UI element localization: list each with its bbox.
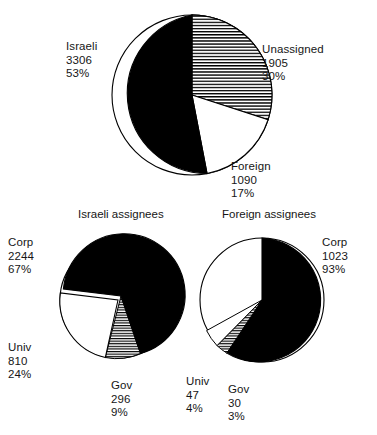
pie-israeli-assignees <box>60 234 185 359</box>
label-israeli-gov-percent: 9% <box>111 406 132 420</box>
label-israeli-gov: Gov 296 9% <box>111 379 132 420</box>
label-israeli-univ-name: Univ <box>8 341 31 355</box>
label-israeli-univ-value: 810 <box>8 355 31 369</box>
label-israeli-corp: Corp 2244 67% <box>8 236 34 277</box>
label-israeli-univ: Univ 810 24% <box>8 341 31 382</box>
label-foreign-gov: Gov 30 3% <box>228 383 249 424</box>
label-foreign-gov-value: 30 <box>228 397 249 411</box>
label-israeli-name: Israeli <box>66 40 97 54</box>
label-foreign-corp-value: 1023 <box>322 250 348 264</box>
label-foreign-gov-percent: 3% <box>228 410 249 424</box>
pie-chart-figure: Israeli 3306 53% Unassigned 1905 30% For… <box>0 0 377 435</box>
label-unassigned-percent: 30% <box>262 70 324 84</box>
label-foreign-gov-name: Gov <box>228 383 249 397</box>
label-foreign-univ-percent: 4% <box>186 402 209 416</box>
label-foreign-corp-name: Corp <box>322 236 348 250</box>
label-foreign-percent: 17% <box>231 187 271 201</box>
label-foreign: Foreign 1090 17% <box>231 160 271 201</box>
label-israeli-univ-percent: 24% <box>8 368 31 382</box>
label-foreign-value: 1090 <box>231 174 271 188</box>
pie-foreign-assignees <box>200 238 324 362</box>
label-israeli-value: 3306 <box>66 54 97 68</box>
label-unassigned-name: Unassigned <box>262 43 324 57</box>
chart-title-foreign-assignees: Foreign assignees <box>222 208 316 221</box>
label-israeli-corp-percent: 67% <box>8 263 34 277</box>
label-foreign-univ: Univ 47 4% <box>186 375 209 416</box>
label-unassigned-value: 1905 <box>262 57 324 71</box>
label-israeli-corp-name: Corp <box>8 236 34 250</box>
chart-title-israeli-assignees: Israeli assignees <box>78 208 164 221</box>
label-foreign-univ-value: 47 <box>186 389 209 403</box>
label-foreign-corp-percent: 93% <box>322 263 348 277</box>
pie-assignee-origin <box>112 15 272 175</box>
label-unassigned: Unassigned 1905 30% <box>262 43 324 84</box>
label-israeli-gov-name: Gov <box>111 379 132 393</box>
label-foreign-corp: Corp 1023 93% <box>322 236 348 277</box>
label-israeli-corp-value: 2244 <box>8 250 34 264</box>
label-israeli-percent: 53% <box>66 67 97 81</box>
label-israeli-gov-value: 296 <box>111 393 132 407</box>
label-foreign-name: Foreign <box>231 160 271 174</box>
label-foreign-univ-name: Univ <box>186 375 209 389</box>
label-israeli: Israeli 3306 53% <box>66 40 97 81</box>
